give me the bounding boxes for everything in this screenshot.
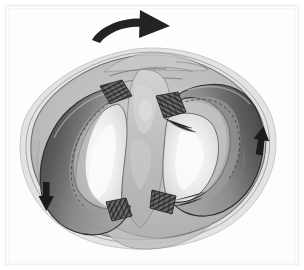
anatomy-illustration <box>0 0 304 270</box>
figure-root <box>0 0 304 270</box>
